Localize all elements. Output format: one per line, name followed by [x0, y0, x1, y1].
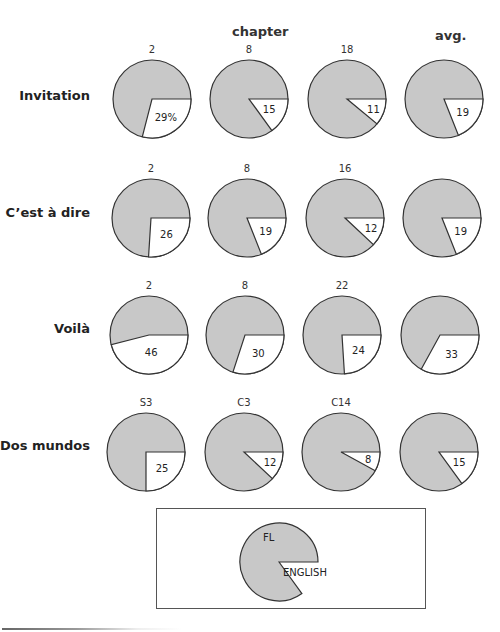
slice-value-label: 25 — [156, 463, 169, 474]
pie-chart: 26 — [110, 177, 192, 259]
pie-chart: 46 — [108, 294, 190, 376]
slice-value-label: 19 — [259, 226, 272, 237]
pie-chart: 19 — [401, 177, 483, 259]
pie-chart: 8 — [300, 411, 382, 493]
chapter-label: C14 — [321, 397, 361, 408]
slice-value-label: 8 — [365, 454, 371, 465]
slice-value-label: 15 — [453, 457, 466, 468]
row-label: C’est à dire — [0, 205, 90, 220]
slice-value-label: 26 — [160, 229, 173, 240]
pie-chart: 30 — [204, 294, 286, 376]
slice-value-label: 24 — [352, 345, 365, 356]
slice-value-label: 19 — [454, 226, 467, 237]
chapter-label: S3 — [126, 397, 166, 408]
pie-chart: 15 — [208, 58, 290, 140]
legend-fl-label: FL — [263, 532, 275, 543]
bottom-rule — [2, 628, 302, 630]
chapter-label: 2 — [129, 280, 169, 291]
slice-value-label: 15 — [263, 104, 276, 115]
row-label: Dos mundos — [0, 438, 90, 453]
legend-fl-slice — [240, 523, 318, 601]
slice-value-label: 11 — [367, 104, 380, 115]
slice-value-label: 29% — [155, 112, 177, 123]
pie-chart: 19 — [206, 177, 288, 259]
chapter-label: C3 — [224, 397, 264, 408]
pie-chart: 29% — [111, 58, 193, 140]
chapter-label: 22 — [322, 280, 362, 291]
column-header-chapter: chapter — [232, 24, 288, 39]
pie-chart: 15 — [398, 411, 480, 493]
chapter-label: 8 — [229, 44, 269, 55]
pie-chart: 12 — [203, 411, 285, 493]
column-header-avg: avg. — [435, 28, 467, 43]
pie-chart: 33 — [399, 294, 481, 376]
pie-chart: 12 — [304, 177, 386, 259]
chapter-label: 2 — [131, 163, 171, 174]
legend-english-label: ENGLISH — [283, 567, 327, 578]
slice-value-label: 46 — [145, 347, 158, 358]
pie-chart: 19 — [403, 58, 485, 140]
chapter-label: 18 — [327, 44, 367, 55]
chapter-label: 8 — [225, 280, 265, 291]
chapter-label: 16 — [325, 163, 365, 174]
pie-chart: 25 — [105, 411, 187, 493]
slice-value-label: 12 — [264, 457, 277, 468]
slice-value-label: 30 — [252, 348, 265, 359]
chapter-label: 2 — [132, 44, 172, 55]
pie-chart: 24 — [301, 294, 383, 376]
row-label: Voilà — [0, 321, 90, 336]
row-label: Invitation — [0, 88, 90, 103]
slice-value-label: 33 — [445, 349, 458, 360]
slice-value-label: 12 — [365, 223, 378, 234]
slice-value-label: 19 — [456, 107, 469, 118]
legend-pie: FL ENGLISH — [157, 509, 425, 608]
pie-chart: 11 — [306, 58, 388, 140]
legend-box: FL ENGLISH — [156, 508, 426, 609]
chapter-label: 8 — [227, 163, 267, 174]
